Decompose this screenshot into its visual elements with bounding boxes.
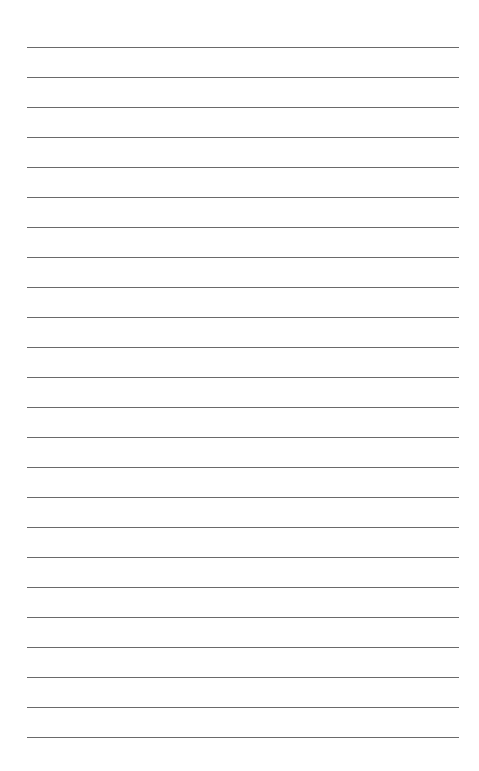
- ruled-line: [27, 557, 459, 558]
- ruled-line: [27, 137, 459, 138]
- ruled-line: [27, 317, 459, 318]
- ruled-line: [27, 227, 459, 228]
- ruled-line: [27, 437, 459, 438]
- ruled-line: [27, 467, 459, 468]
- ruled-line: [27, 167, 459, 168]
- ruled-line: [27, 257, 459, 258]
- ruled-line: [27, 287, 459, 288]
- ruled-line: [27, 617, 459, 618]
- ruled-line: [27, 707, 459, 708]
- ruled-line: [27, 407, 459, 408]
- ruled-line: [27, 527, 459, 528]
- ruled-line: [27, 197, 459, 198]
- lined-page: [0, 0, 479, 771]
- ruled-line: [27, 107, 459, 108]
- ruled-line: [27, 47, 459, 48]
- ruled-line: [27, 77, 459, 78]
- ruled-line: [27, 677, 459, 678]
- ruled-line: [27, 647, 459, 648]
- ruled-line: [27, 737, 459, 738]
- ruled-line: [27, 347, 459, 348]
- ruled-line: [27, 587, 459, 588]
- ruled-line: [27, 497, 459, 498]
- ruled-line: [27, 377, 459, 378]
